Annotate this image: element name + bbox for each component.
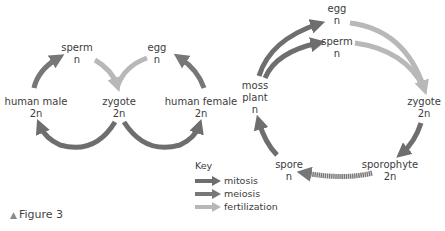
figure-caption: ▲Figure 3 [10, 208, 63, 221]
arrow-female-to-egg [180, 58, 204, 88]
label-human-egg: eggn [148, 42, 167, 66]
fertilization-arrow-icon [195, 202, 221, 212]
legend-item-mitosis: mitosis [195, 174, 278, 187]
label-human-sperm: spermn [61, 42, 92, 66]
legend-item-meiosis: meiosis [195, 187, 278, 200]
arrow-zygote-to-female [124, 122, 199, 147]
label-moss-spore: sporen [275, 159, 303, 183]
mitosis-arrow-icon [195, 176, 221, 186]
legend-item-fertilization: fertilization [195, 200, 278, 213]
legend: Key mitosis meiosis fertilization [195, 160, 278, 213]
arrow-sperm-to-zygote [95, 60, 117, 85]
arrow-spore-to-moss [259, 122, 277, 155]
arrow-male-to-sperm [34, 58, 58, 88]
arrow-egg-to-zygote [118, 58, 147, 85]
label-moss-zygote: zygote2n [407, 96, 441, 120]
meiosis-arrow-icon [195, 189, 221, 199]
label-human-female: human female2n [165, 96, 238, 120]
arrow-zygote-to-male [40, 122, 115, 147]
legend-title: Key [195, 160, 278, 171]
arrow-egg-to-moss-zygote [350, 23, 424, 88]
label-moss-plant: mossplantn [242, 80, 268, 116]
label-human-male: human male2n [5, 96, 68, 120]
label-moss-sperm: spermn [321, 36, 352, 60]
label-moss-egg: eggn [328, 3, 347, 27]
label-human-zygote: zygote2n [102, 96, 136, 120]
triangle-icon: ▲ [10, 210, 17, 220]
label-moss-sporophyte: sporophyte2n [362, 159, 418, 183]
arrow-zygote-to-sporophyte [402, 123, 421, 153]
